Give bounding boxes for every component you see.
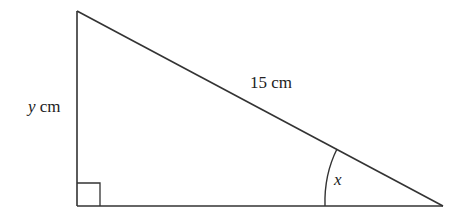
hypotenuse — [77, 11, 443, 206]
triangle-diagram — [0, 0, 460, 222]
vertical-side-variable: y — [28, 97, 36, 116]
vertical-side-unit: cm — [36, 97, 61, 116]
vertical-side-label: y cm — [28, 97, 61, 117]
hypotenuse-label: 15 cm — [250, 73, 292, 93]
angle-label: x — [334, 170, 342, 190]
right-angle-marker — [77, 183, 100, 206]
